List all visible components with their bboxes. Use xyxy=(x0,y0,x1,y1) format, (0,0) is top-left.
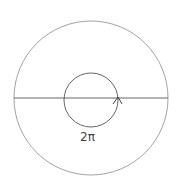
two-pi-label: 2π xyxy=(80,130,95,144)
circle-diagram: 2π xyxy=(0,0,181,183)
inner-circle xyxy=(64,73,118,127)
